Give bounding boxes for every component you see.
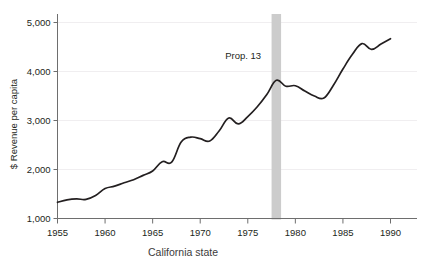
y-axis-ticks: 1,0002,0003,0004,0005,000 [27,17,58,224]
y-tick-label: 4,000 [27,66,51,77]
y-tick-label: 2,000 [27,164,51,175]
y-tick-label: 3,000 [27,115,51,126]
prop-13-band [272,14,282,220]
y-axis-title: $ Revenue per capita [8,78,19,169]
annotation-group [272,14,282,220]
y-tick-label: 1,000 [27,213,51,224]
x-tick-label: 1990 [380,227,401,238]
gridlines [58,23,418,170]
y-tick-label: 5,000 [27,17,51,28]
x-tick-label: 1955 [47,227,68,238]
x-tick-label: 1960 [95,227,116,238]
figure-caption-text: California state [148,248,218,258]
x-tick-label: 1975 [237,227,258,238]
x-tick-label: 1965 [142,227,163,238]
axes [58,14,418,219]
x-tick-label: 1970 [190,227,211,238]
figure-caption-clipped: California state [0,248,421,260]
prop-13-label: Prop. 13 [225,50,261,61]
x-tick-label: 1985 [332,227,353,238]
x-tick-label: 1980 [285,227,306,238]
chart-container: 1,0002,0003,0004,0005,000195519601965197… [0,0,421,260]
revenue-per-capita-line-chart: 1,0002,0003,0004,0005,000195519601965197… [0,0,421,260]
x-axis-ticks: 19551960196519701975198019851990 [47,219,401,238]
